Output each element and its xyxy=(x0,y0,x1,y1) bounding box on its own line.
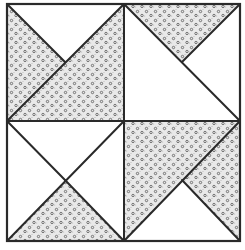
quilt-block-diagram xyxy=(0,0,245,250)
